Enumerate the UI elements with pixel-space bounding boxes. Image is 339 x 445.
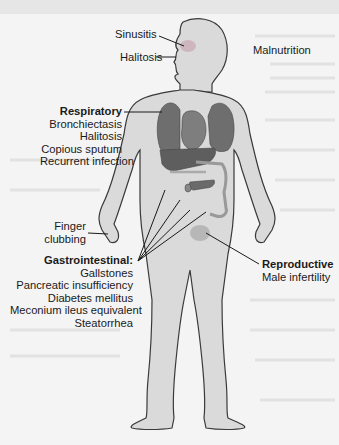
body-outline (99, 19, 275, 430)
gastrointestinal-group: Gastrointestinal: Gallstones Pancreatic … (10, 254, 133, 330)
reproductive-heading: Reproductive (262, 258, 334, 271)
respiratory-item: Copious sputum (40, 143, 122, 156)
respiratory-item: Halitosis (40, 130, 122, 143)
reproductive-group: Reproductive Male infertility (262, 258, 334, 283)
finger-clubbing-line1: Finger (40, 220, 86, 233)
respiratory-group: Respiratory Bronchiectasis Halitosis Cop… (40, 105, 122, 168)
gastrointestinal-item: Meconium ileus equivalent (10, 304, 133, 317)
sinus-spot (180, 40, 196, 52)
gastrointestinal-heading: Gastrointestinal: (10, 254, 133, 267)
gastrointestinal-item: Gallstones (10, 267, 133, 280)
label-halitosis-head: Halitosis (120, 51, 162, 64)
respiratory-heading: Respiratory (40, 105, 122, 118)
gastrointestinal-item: Steatorrhea (10, 317, 133, 330)
finger-clubbing-label: Finger clubbing (40, 220, 86, 245)
respiratory-item: Recurrent infection (40, 155, 122, 168)
gastrointestinal-item: Diabetes mellitus (10, 292, 133, 305)
respiratory-item: Bronchiectasis (40, 118, 122, 131)
finger-clubbing-line2: clubbing (40, 233, 86, 246)
label-malnutrition: Malnutrition (253, 44, 311, 57)
reproductive-item: Male infertility (262, 271, 334, 284)
gastrointestinal-item: Pancreatic insufficiency (10, 279, 133, 292)
label-sinusitis: Sinusitis (115, 28, 157, 41)
reproductive-spot (190, 225, 210, 241)
